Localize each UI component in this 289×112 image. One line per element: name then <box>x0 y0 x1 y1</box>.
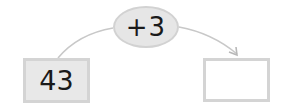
operation-oval: +3 <box>113 6 179 48</box>
arc-right <box>179 27 237 54</box>
operation-label: +3 <box>126 12 166 42</box>
start-number: 43 <box>39 65 73 96</box>
arc-left <box>58 28 113 58</box>
answer-box[interactable] <box>203 58 270 102</box>
start-number-box: 43 <box>23 58 90 103</box>
